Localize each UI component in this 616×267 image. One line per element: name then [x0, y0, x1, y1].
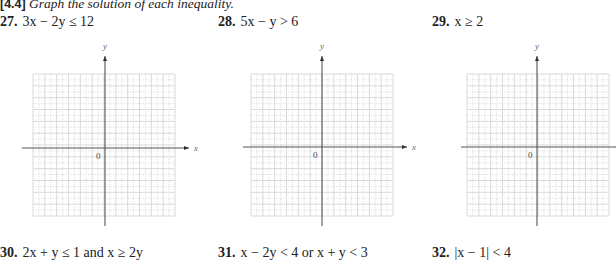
- origin-label: 0: [528, 150, 533, 160]
- y-axis-arrow-icon: [320, 56, 324, 61]
- x-axis-label: x: [411, 142, 416, 152]
- y-axis-label: y: [102, 41, 107, 51]
- y-axis-arrow-icon: [103, 56, 107, 61]
- x-axis-arrow-icon: [402, 145, 407, 149]
- coordinate-grids: yx0 yx0 y0: [0, 0, 616, 267]
- graph-29: y0: [461, 41, 616, 226]
- y-axis-label: y: [319, 41, 324, 51]
- y-axis-label: y: [534, 41, 539, 51]
- y-axis-arrow-icon: [535, 56, 539, 61]
- origin-label: 0: [96, 151, 101, 161]
- x-axis-arrow-icon: [184, 146, 189, 150]
- graph-28: yx0: [243, 41, 416, 226]
- graph-27: yx0: [22, 41, 198, 226]
- origin-label: 0: [313, 150, 318, 160]
- x-axis-label: x: [193, 143, 198, 153]
